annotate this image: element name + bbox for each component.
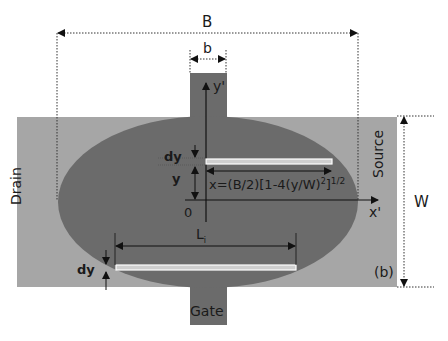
label-y-prime: y' <box>213 78 225 94</box>
label-dy-top: dy <box>164 149 182 164</box>
label-B: B <box>202 13 212 31</box>
label-gate: Gate <box>190 303 224 319</box>
top-strip <box>206 159 332 164</box>
equation-power: 1/2 <box>331 176 345 186</box>
label-y: y <box>172 171 180 186</box>
equation-main: x=(B/2)[1-4(y/W) <box>209 177 321 192</box>
label-drain: Drain <box>8 167 24 205</box>
label-x-prime: x' <box>369 204 381 220</box>
label-Li: Li <box>196 226 206 245</box>
label-b: b <box>203 40 212 56</box>
label-i: i <box>204 236 206 245</box>
label-panel: (b) <box>374 264 394 280</box>
label-L: L <box>196 226 204 242</box>
bottom-strip <box>116 265 296 270</box>
label-W: W <box>414 193 429 211</box>
label-dy-bottom: dy <box>77 262 95 277</box>
label-source: Source <box>370 130 386 178</box>
gate-ellipse <box>58 116 358 288</box>
label-origin: 0 <box>184 205 192 220</box>
equation: x=(B/2)[1-4(y/W)2]1/2 <box>209 176 345 192</box>
